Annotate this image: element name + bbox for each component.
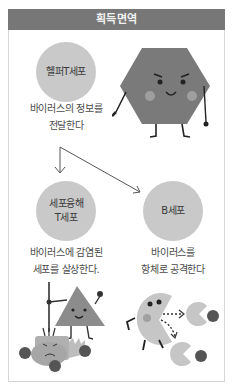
node-cytotoxic-t-cell: 세포융해 T세포 [36,181,96,241]
caption-cytotoxic-t-cell: 바이러스에 감염된 세포를 살상한다. [8,244,124,278]
caption-b-cell: 바이러스를 항체로 공격한다 [120,244,226,278]
triangle-character-icon [15,280,115,372]
pacman-antibody-character-icon [125,280,225,372]
node-b-cell: B세포 [143,181,203,241]
